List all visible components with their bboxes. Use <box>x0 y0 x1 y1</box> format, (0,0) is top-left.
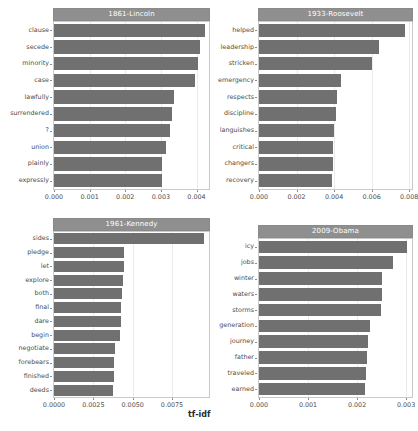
bar-row <box>259 57 412 70</box>
bar-row <box>259 124 412 137</box>
bar-row <box>259 367 412 380</box>
facet-1933-roosevelt: 1933-Roosevelt <box>258 8 413 190</box>
x-axis-1861-lincoln: 0.0000.0010.0020.0030.004 <box>54 190 209 204</box>
x-tick-mark <box>406 398 407 400</box>
bar-row <box>259 141 412 154</box>
y-tick-label: earned <box>232 386 254 393</box>
panel-2009-obama <box>258 238 413 398</box>
y-tick-mark <box>255 263 257 264</box>
bar-winter <box>259 272 382 285</box>
bar-row <box>259 256 412 269</box>
x-tick-label: 0.006 <box>362 193 380 201</box>
x-tick-mark <box>409 190 410 192</box>
y-tick-label: leadership <box>221 44 254 51</box>
y-axis-2009-obama: icyjobswinterwatersstormsgenerationjourn… <box>0 239 258 397</box>
y-tick-mark <box>255 389 257 390</box>
facet-title-1933-roosevelt: 1933-Roosevelt <box>258 8 413 21</box>
y-tick-label: father <box>235 354 254 361</box>
y-tick-mark <box>255 358 257 359</box>
x-tick-mark <box>308 398 309 400</box>
facet-title-2009-obama: 2009-Obama <box>258 225 413 238</box>
y-tick-mark <box>255 342 257 343</box>
x-axis-1961-kennedy: 0.00000.00250.00500.0075 <box>54 398 209 412</box>
bar-row <box>259 272 412 285</box>
bar-changers <box>259 157 333 170</box>
x-tick-label: 0.002 <box>116 193 134 201</box>
x-tick-label: 0.000 <box>250 401 268 409</box>
x-tick-mark <box>334 190 335 192</box>
y-axis-1933-roosevelt: helpedleadershipstrickenemergencyrespect… <box>0 22 258 189</box>
x-tick-mark <box>54 398 55 400</box>
facet-title-1861-lincoln: 1861-Lincoln <box>53 8 210 21</box>
y-tick-mark <box>255 30 257 31</box>
bar-row <box>259 90 412 103</box>
bar-critical <box>259 141 333 154</box>
x-tick-label: 0.002 <box>287 193 305 201</box>
bar-row <box>259 241 412 254</box>
bar-waters <box>259 288 382 301</box>
y-tick-label: jobs <box>241 259 254 266</box>
y-tick-mark <box>255 131 257 132</box>
x-axis-2009-obama: 0.0000.0010.0020.003 <box>259 398 412 412</box>
x-axis-1933-roosevelt: 0.0000.0020.0040.0060.008 <box>259 190 412 204</box>
x-tick-mark <box>197 190 198 192</box>
bar-helped <box>259 24 405 37</box>
bar-row <box>259 383 412 396</box>
x-tick-mark <box>161 190 162 192</box>
x-tick-mark <box>54 190 55 192</box>
y-tick-label: icy <box>245 243 254 250</box>
y-tick-label: discipline <box>224 110 254 117</box>
x-tick-mark <box>297 190 298 192</box>
x-tick-label: 0.003 <box>152 193 170 201</box>
bar-earned <box>259 383 365 396</box>
y-tick-label: emergency <box>218 77 254 84</box>
bar-row <box>259 24 412 37</box>
bar-respects <box>259 90 337 103</box>
y-tick-mark <box>255 181 257 182</box>
x-tick-label: 0.0050 <box>121 401 143 409</box>
y-tick-label: stricken <box>229 60 254 67</box>
y-tick-mark <box>255 147 257 148</box>
bar-row <box>259 304 412 317</box>
y-tick-label: critical <box>233 144 254 151</box>
bar-stricken <box>259 57 372 70</box>
y-tick-label: traveled <box>227 370 254 377</box>
y-tick-label: storms <box>232 307 254 314</box>
x-tick-label: 0.004 <box>325 193 343 201</box>
bar-row <box>259 288 412 301</box>
x-tick-label: 0.000 <box>45 193 63 201</box>
y-tick-mark <box>255 114 257 115</box>
bar-leadership <box>259 40 379 53</box>
panel-1933-roosevelt <box>258 21 413 190</box>
x-tick-mark <box>125 190 126 192</box>
bar-father <box>259 351 367 364</box>
x-tick-mark <box>372 190 373 192</box>
bar-row <box>259 351 412 364</box>
bar-row <box>259 157 412 170</box>
bar-row <box>259 40 412 53</box>
y-tick-mark <box>255 80 257 81</box>
y-tick-label: waters <box>232 291 254 298</box>
y-tick-label: winter <box>234 275 254 282</box>
bar-storms <box>259 304 381 317</box>
y-tick-label: changers <box>225 160 254 167</box>
bar-languishes <box>259 124 334 137</box>
x-tick-label: 0.004 <box>187 193 205 201</box>
y-tick-mark <box>255 247 257 248</box>
x-tick-label: 0.003 <box>397 401 415 409</box>
y-tick-mark <box>255 64 257 65</box>
bar-row <box>259 320 412 333</box>
x-tick-mark <box>259 190 260 192</box>
bar-discipline <box>259 107 336 120</box>
x-tick-label: 0.0075 <box>161 401 183 409</box>
bar-row <box>259 74 412 87</box>
y-tick-label: recovery <box>226 177 254 184</box>
x-tick-mark <box>259 398 260 400</box>
x-tick-label: 0.0025 <box>82 401 104 409</box>
bar-icy <box>259 241 407 254</box>
bar-row <box>259 174 412 187</box>
x-tick-mark <box>172 398 173 400</box>
y-tick-label: respects <box>227 94 254 101</box>
y-tick-mark <box>255 326 257 327</box>
x-tick-label: 0.0000 <box>43 401 65 409</box>
